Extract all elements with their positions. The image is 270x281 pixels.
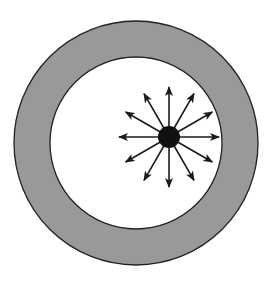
ring-inner-edge <box>50 57 222 229</box>
diagram <box>0 0 270 281</box>
point-source <box>158 126 180 148</box>
ring-diagram <box>0 0 270 281</box>
